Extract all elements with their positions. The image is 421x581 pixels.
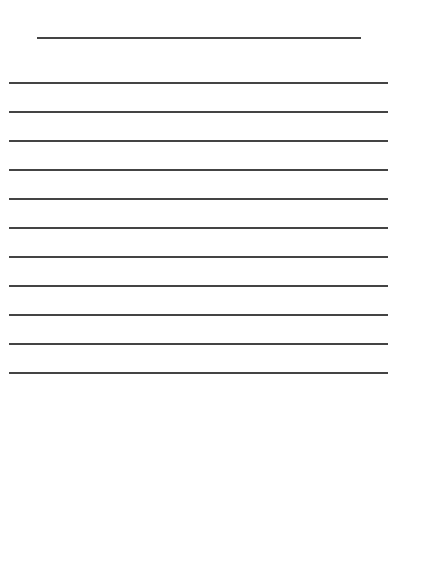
body-line <box>9 82 388 84</box>
body-line <box>9 111 388 113</box>
body-line <box>9 343 388 345</box>
body-line <box>9 285 388 287</box>
body-line <box>9 140 388 142</box>
title-line <box>37 37 361 39</box>
body-line <box>9 227 388 229</box>
body-line <box>9 314 388 316</box>
body-line <box>9 256 388 258</box>
lined-paper-page <box>0 0 421 581</box>
body-line <box>9 169 388 171</box>
body-line <box>9 372 388 374</box>
body-line <box>9 198 388 200</box>
